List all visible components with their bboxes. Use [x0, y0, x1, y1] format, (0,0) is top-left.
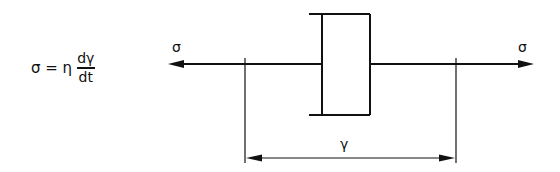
dashpot-diagram	[0, 0, 560, 172]
strain-label: γ	[340, 137, 348, 151]
stress-label-left: σ	[172, 40, 181, 54]
arrow-left-icon	[168, 60, 184, 68]
stress-arrow-right	[370, 60, 534, 68]
strain-dimension	[245, 58, 456, 163]
dimension-arrow-left-icon	[246, 155, 262, 162]
dimension-arrow-right-icon	[439, 155, 455, 162]
stress-label-right: σ	[518, 40, 527, 54]
arrow-right-icon	[518, 60, 534, 68]
